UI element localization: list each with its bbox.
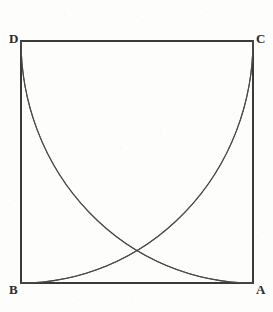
arc-centered-at-c <box>21 41 253 283</box>
arc-centered-at-d <box>21 41 253 283</box>
vertex-label-a: A <box>256 283 265 296</box>
vertex-label-c: C <box>256 32 265 45</box>
arc-centered-at-b <box>21 41 253 283</box>
square-abcd <box>21 41 253 283</box>
vertex-label-b: B <box>9 283 18 296</box>
figure-canvas <box>0 0 273 312</box>
geometry-figure: D C B A <box>0 0 273 312</box>
arc-centered-at-a <box>21 41 253 283</box>
vertex-label-d: D <box>9 32 18 45</box>
